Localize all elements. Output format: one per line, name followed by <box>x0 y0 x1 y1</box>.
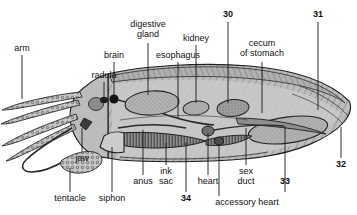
label-kidney: kidney <box>183 34 209 44</box>
label-radula: radula <box>91 71 116 81</box>
label-32: 32 <box>336 160 346 170</box>
label-cecum-of-stomach: cecum of stomach <box>240 39 284 58</box>
label-ink-sac: ink sac <box>159 167 173 186</box>
label-33: 33 <box>280 177 290 187</box>
brain <box>109 94 118 103</box>
label-30: 30 <box>223 10 233 20</box>
label-brain: brain <box>104 51 124 61</box>
label-esophagus: esophagus <box>156 51 200 61</box>
label-heart: heart <box>198 177 219 187</box>
drawing-body <box>1 22 351 196</box>
label-tentacle: tentacle <box>54 194 86 204</box>
label-sex-duct-line2: duct <box>237 177 254 187</box>
label-sex-duct: sex duct <box>237 167 254 186</box>
label-jaw: jaw <box>75 154 89 164</box>
label-anus: anus <box>133 177 153 187</box>
label-accessory-heart: accessory heart <box>215 198 279 208</box>
label-cecum-line2: of stomach <box>240 49 284 59</box>
label-siphon: siphon <box>99 194 126 204</box>
radula <box>100 97 108 103</box>
label-34: 34 <box>181 194 191 204</box>
label-31: 31 <box>313 10 323 20</box>
label-arm: arm <box>14 44 30 54</box>
label-ink-sac-line2: sac <box>159 177 173 187</box>
label-digestive-gland: digestive gland <box>130 20 166 39</box>
label-digestive-gland-line2: gland <box>130 30 166 40</box>
cuttlefish-anatomy-figure <box>0 0 357 215</box>
accessory-heart <box>214 137 223 145</box>
